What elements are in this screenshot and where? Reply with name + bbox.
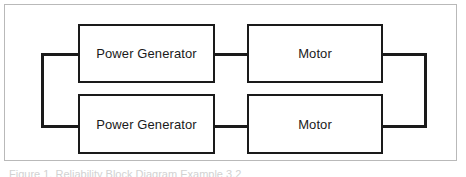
connector-pg-bottom-to-motor-bottom: [213, 125, 249, 128]
block-label: Power Generator: [96, 47, 197, 60]
block-power-generator-top: Power Generator: [78, 24, 215, 83]
block-power-generator-bottom: Power Generator: [78, 94, 215, 154]
connector-left-spine: [41, 53, 44, 128]
figure-caption: Figure 1. Reliability Block Diagram Exam…: [9, 170, 241, 177]
block-motor-bottom: Motor: [247, 94, 383, 154]
connector-right-spine: [424, 53, 427, 128]
figure-frame: [4, 4, 457, 161]
block-label: Power Generator: [96, 118, 197, 131]
block-diagram-figure: Power Generator Motor Power Generator Mo…: [0, 0, 466, 177]
connector-motor-top-to-right: [381, 53, 427, 56]
connector-pg-top-to-motor-top: [213, 53, 249, 56]
connector-left-to-pg-top: [41, 53, 80, 56]
figure-caption-clip: Figure 1. Reliability Block Diagram Exam…: [0, 170, 466, 177]
block-motor-top: Motor: [247, 24, 383, 83]
block-label: Motor: [298, 118, 332, 131]
block-label: Motor: [298, 47, 332, 60]
connector-left-to-pg-bottom: [41, 125, 80, 128]
connector-motor-bottom-to-right: [381, 125, 427, 128]
